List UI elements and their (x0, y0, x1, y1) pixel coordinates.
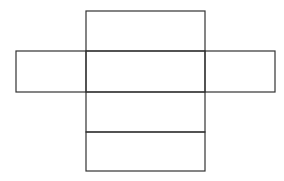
face-right (205, 51, 275, 92)
face-bottom (86, 92, 205, 132)
face-front (86, 51, 205, 92)
cuboid-net-diagram (0, 0, 284, 181)
face-top (86, 11, 205, 51)
face-left (16, 51, 86, 92)
face-back (86, 132, 205, 171)
